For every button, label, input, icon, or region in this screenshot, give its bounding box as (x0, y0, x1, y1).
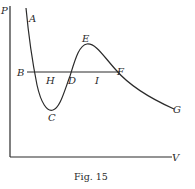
isotherm-curve (26, 8, 174, 110)
point-e-label: E (81, 33, 90, 44)
region-i-label: I (94, 75, 100, 86)
point-b-label: B (16, 67, 24, 78)
p-axis-label: P (0, 5, 8, 16)
point-d-label: D (67, 75, 76, 86)
point-a-label: A (28, 13, 36, 24)
point-c-label: C (48, 112, 56, 123)
v-axis-label: V (172, 152, 181, 163)
isotherm-diagram: P V A B H D C E I F G Fig. 15 (0, 0, 195, 189)
region-h-label: H (45, 75, 55, 86)
figure-caption: Fig. 15 (74, 171, 108, 182)
point-f-label: F (116, 66, 125, 77)
point-g-label: G (173, 104, 181, 115)
